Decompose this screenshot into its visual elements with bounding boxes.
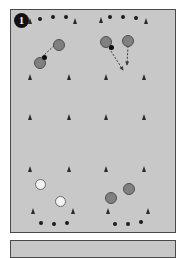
player-light-bottom-left-upper (35, 179, 46, 190)
ball-bottom-left-2 (52, 222, 56, 226)
cone-row3-2 (67, 114, 71, 120)
ball-at-passer-top-left (42, 55, 47, 60)
cone-row3-3 (104, 114, 108, 120)
player-dark-top-right-right (122, 35, 134, 47)
ball-top-left-1 (38, 17, 42, 21)
cone-row4-2 (67, 166, 71, 172)
cone-top-row-1 (28, 18, 32, 24)
cone-bottom-row-3 (106, 208, 110, 214)
cone-row3-4 (142, 114, 146, 120)
cone-row2-4 (142, 74, 146, 80)
ball-bottom-left-3 (65, 221, 69, 225)
cone-row2-2 (67, 74, 71, 80)
arrow-run-top-right-diagonal (109, 48, 123, 70)
ball-top-left-2 (51, 15, 55, 19)
ball-bottom-right-2 (126, 222, 130, 226)
playing-field: 1 (11, 10, 175, 232)
cone-top-row-3 (99, 17, 103, 23)
ball-bottom-left-1 (39, 221, 43, 225)
player-dark-bottom-right-right (123, 183, 135, 195)
ball-top-right-3 (134, 16, 138, 20)
movement-arrow-layer (11, 10, 176, 233)
cone-bottom-row-2 (71, 208, 75, 214)
cone-row3-1 (28, 114, 32, 120)
player-dark-top-left-receiver (53, 39, 65, 51)
next-diagram-panel (10, 240, 176, 258)
cone-row2-3 (104, 74, 108, 80)
cone-bottom-row-4 (146, 208, 150, 214)
player-dark-bottom-right-left (105, 192, 117, 204)
cone-bottom-row-1 (31, 208, 35, 214)
ball-top-right-1 (108, 15, 112, 19)
cone-row2-1 (28, 74, 32, 80)
cone-row4-3 (104, 166, 108, 172)
ball-at-player-top-right (109, 45, 114, 50)
player-light-bottom-left-lower (55, 196, 66, 207)
cone-row4-4 (142, 166, 146, 172)
cone-top-row-4 (144, 18, 148, 24)
ball-top-left-3 (64, 15, 68, 19)
step-number-badge: 1 (14, 13, 29, 28)
arrow-run-top-right-down (127, 46, 128, 65)
ball-bottom-right-3 (139, 220, 143, 224)
cone-row4-1 (28, 166, 32, 172)
ball-bottom-right-1 (113, 222, 117, 226)
ball-top-right-2 (121, 15, 125, 19)
cone-top-row-2 (73, 18, 77, 24)
drill-diagram-panel: 1 (10, 9, 176, 233)
